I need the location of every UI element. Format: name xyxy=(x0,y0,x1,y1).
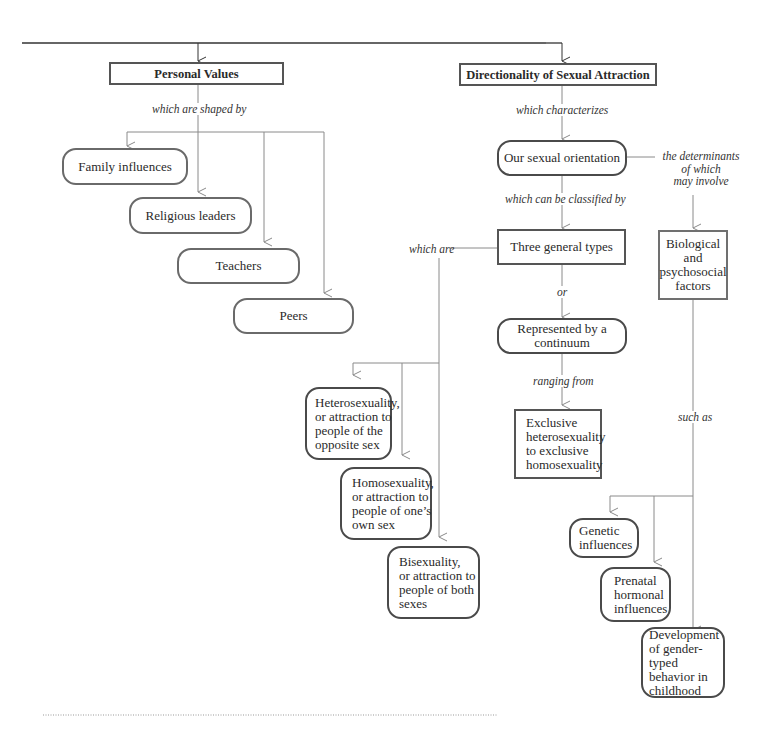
link-label-characterizes: which characterizes xyxy=(516,104,608,116)
link-label-determinants: the determinants of which may involve xyxy=(655,150,747,188)
node-family-influences: Family influences xyxy=(62,148,188,185)
link-label-or: or xyxy=(554,286,570,298)
node-continuum-range: Exclusive heterosexuality to exclusive h… xyxy=(514,409,602,479)
link-label-ranging-from: ranging from xyxy=(533,375,591,387)
node-teachers: Teachers xyxy=(177,248,300,284)
node-bisexuality: Bisexuality, or attraction to people of … xyxy=(387,546,480,619)
node-genetic-influences: Genetic influences xyxy=(569,518,639,558)
link-label-which-are: which are xyxy=(409,243,449,255)
node-religious-leaders: Religious leaders xyxy=(129,197,252,234)
node-prenatal-hormonal-influences: Prenatal hormonal influences xyxy=(600,567,671,622)
node-three-general-types: Three general types xyxy=(497,229,626,265)
node-gender-typed-behavior: Development of gender-typed behavior in … xyxy=(641,627,725,698)
node-heterosexuality: Heterosexuality, or attraction to people… xyxy=(305,387,392,460)
node-peers: Peers xyxy=(233,298,354,334)
node-sexual-orientation: Our sexual orientation xyxy=(497,140,627,176)
node-homosexuality: Homosexuality, or attraction to people o… xyxy=(340,467,432,540)
link-label-such-as: such as xyxy=(678,411,710,423)
node-biological-psychosocial-factors: Biological and psychosocial factors xyxy=(658,230,728,300)
link-label-shaped-by: which are shaped by xyxy=(152,103,244,115)
node-directionality: Directionality of Sexual Attraction xyxy=(459,63,657,86)
node-continuum: Represented by a continuum xyxy=(497,318,627,354)
node-personal-values: Personal Values xyxy=(109,62,284,85)
link-label-classified-by: which can be classified by xyxy=(505,193,620,205)
